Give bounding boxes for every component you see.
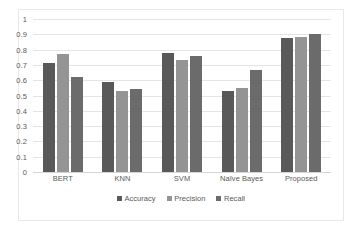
y-axis-tick-label: 0.9 — [16, 30, 27, 39]
y-axis-tick-label: 0.8 — [16, 45, 27, 54]
legend-swatch-icon — [117, 196, 122, 201]
y-axis-tick-label: 0.2 — [16, 137, 27, 146]
legend-label: Accuracy — [124, 194, 155, 203]
bar-group — [271, 19, 331, 172]
y-axis-tick-label: 0.7 — [16, 60, 27, 69]
x-axis-category-label: BERT — [33, 174, 93, 183]
legend-item[interactable]: Accuracy — [117, 194, 156, 203]
y-axis-tick-label: 1 — [23, 15, 27, 24]
y-axis-tick-label: 0.5 — [16, 91, 27, 100]
plot-area — [33, 19, 331, 172]
x-axis-category-label: Naïve Bayes — [212, 174, 272, 183]
bar — [250, 70, 262, 172]
bar — [102, 82, 114, 172]
bar — [57, 54, 69, 172]
bar — [162, 53, 174, 172]
x-axis-category-label: Proposed — [271, 174, 331, 183]
chart-legend: AccuracyPrecisionRecall — [18, 194, 344, 203]
legend-label: Precision — [174, 194, 205, 203]
bar-group — [152, 19, 212, 172]
legend-item[interactable]: Precision — [167, 194, 206, 203]
bar-groups — [33, 19, 331, 172]
x-axis-category-label: KNN — [93, 174, 153, 183]
bar — [309, 34, 321, 172]
x-axis-category-labels: BERTKNNSVMNaïve BayesProposed — [33, 174, 331, 183]
bar — [71, 77, 83, 172]
bar-group — [93, 19, 153, 172]
bar — [176, 60, 188, 172]
y-axis-tick-label: 0.3 — [16, 122, 27, 131]
bar — [281, 38, 293, 172]
bar — [236, 88, 248, 172]
y-axis-tick-label: 0.4 — [16, 106, 27, 115]
x-axis-category-label: SVM — [152, 174, 212, 183]
y-axis-tick-label: 0 — [23, 168, 27, 177]
legend-item[interactable]: Recall — [216, 194, 245, 203]
legend-swatch-icon — [167, 196, 172, 201]
bar — [43, 63, 55, 172]
legend-swatch-icon — [216, 196, 221, 201]
gridline — [33, 172, 331, 173]
y-axis-tick-labels: 00.10.20.30.40.50.60.70.80.91 — [0, 19, 31, 172]
bar-group — [33, 19, 93, 172]
bar — [190, 56, 202, 172]
y-axis-tick-label: 0.1 — [16, 152, 27, 161]
bar-group — [212, 19, 272, 172]
bar-chart-figure: 00.10.20.30.40.50.60.70.80.91 BERTKNNSVM… — [0, 0, 357, 235]
legend-label: Recall — [224, 194, 245, 203]
bar — [222, 91, 234, 172]
y-axis-tick-label: 0.6 — [16, 76, 27, 85]
bar — [295, 37, 307, 172]
bar — [130, 89, 142, 172]
bar — [116, 91, 128, 172]
